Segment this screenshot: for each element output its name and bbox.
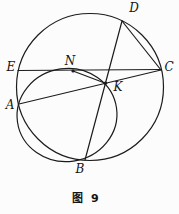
label-D: D bbox=[128, 1, 139, 15]
label-A: A bbox=[5, 98, 15, 112]
figure-caption: 图 9 bbox=[0, 189, 176, 205]
label-C: C bbox=[164, 60, 173, 74]
small-circle bbox=[11, 62, 123, 168]
geometry-figure: ENDCAKB bbox=[0, 0, 179, 184]
chord-EC bbox=[18, 70, 161, 71]
point-N bbox=[71, 69, 74, 72]
point-K bbox=[104, 82, 108, 86]
figure-page: ENDCAKB 图 9 bbox=[0, 0, 179, 214]
chord-AC bbox=[19, 70, 161, 104]
label-E: E bbox=[6, 60, 16, 74]
label-B: B bbox=[75, 162, 85, 176]
label-K: K bbox=[113, 80, 124, 94]
label-N: N bbox=[64, 54, 76, 68]
chord-DC bbox=[122, 21, 161, 70]
